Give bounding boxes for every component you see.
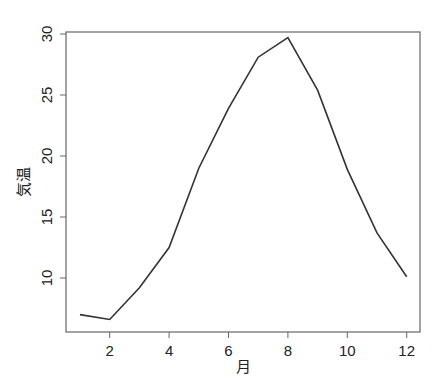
plot-frame [66,32,420,332]
x-tick-label: 8 [284,342,292,359]
temperature-line [80,38,407,320]
x-axis-title: 月 [236,358,251,376]
line-chart: 1015202530 24681012 月 気温 [0,0,441,385]
y-axis-title: 気温 [15,167,33,197]
x-tick-label: 2 [106,342,114,359]
y-axis: 1015202530 [38,26,66,287]
y-tick-label: 20 [38,148,55,165]
x-tick-label: 10 [339,342,356,359]
x-tick-label: 4 [165,342,173,359]
y-tick-label: 25 [38,87,55,104]
y-tick-label: 15 [38,209,55,226]
x-axis: 24681012 [106,332,416,359]
y-tick-label: 10 [38,270,55,287]
x-tick-label: 6 [224,342,232,359]
y-tick-label: 30 [38,26,55,43]
x-tick-label: 12 [398,342,415,359]
